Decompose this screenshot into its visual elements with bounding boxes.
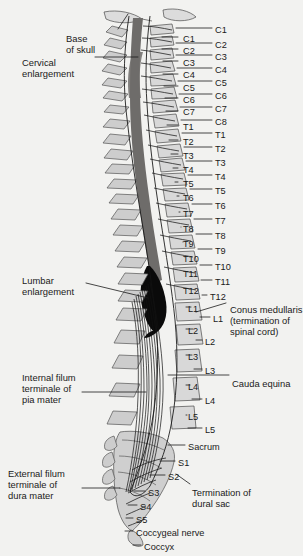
vertebra-label-t8-line: T8 bbox=[183, 224, 194, 235]
label-lumbar-enlargement-line: enlargement bbox=[22, 286, 74, 297]
nerve-label-c8-line: C8 bbox=[215, 117, 227, 128]
label-cervical-enlargement-line: enlargement bbox=[22, 68, 74, 79]
nerve-label-c6-line: C6 bbox=[215, 91, 227, 102]
label-base-of-skull: Baseof skull bbox=[66, 33, 95, 55]
vertebra-label-t6-line: T6 bbox=[183, 193, 194, 204]
label-external-filum-terminale-line: External filum bbox=[8, 468, 65, 479]
nerve-label-sacrum: Sacrum bbox=[188, 442, 220, 453]
vertebra-label-t2: T2 bbox=[183, 137, 194, 148]
nerve-label-l5: L5 bbox=[205, 425, 215, 436]
nerve-label-c2-line: C2 bbox=[215, 40, 227, 51]
vertebra-label-t12: T12 bbox=[183, 286, 199, 297]
nerve-label-t9-line: T9 bbox=[215, 246, 226, 257]
nerve-label-t2: T2 bbox=[215, 144, 226, 155]
vertebra-label-t10: T10 bbox=[183, 254, 199, 265]
vertebra-label-c5-line: C5 bbox=[183, 83, 195, 94]
nerve-label-t7: T7 bbox=[215, 216, 226, 227]
vertebra-label-l5-line: L5 bbox=[188, 412, 198, 423]
vertebra-label-c7-line: C7 bbox=[183, 107, 195, 118]
note-conus-medullaris-line: spinal cord) bbox=[230, 326, 302, 337]
nerve-label-c8: C8 bbox=[215, 117, 227, 128]
nerve-label-l2: L2 bbox=[205, 337, 215, 348]
nerve-label-t5: T5 bbox=[215, 186, 226, 197]
nerve-label-t4: T4 bbox=[215, 172, 226, 183]
nerve-label-t6-line: T6 bbox=[215, 201, 226, 212]
nerve-label-t10: T10 bbox=[215, 262, 231, 273]
vertebra-label-t5: T5 bbox=[183, 179, 194, 190]
note-termination-dural-sac: Termination ofdural sac bbox=[192, 487, 251, 509]
nerve-label-t1-line: T1 bbox=[215, 130, 226, 141]
vertebra-label-l3: L3 bbox=[188, 352, 198, 363]
nerve-label-s2: S2 bbox=[168, 472, 179, 483]
vertebra-label-t4-line: T4 bbox=[183, 165, 194, 176]
nerve-label-s2-line: S2 bbox=[168, 472, 179, 483]
vertebra-label-l3-line: L3 bbox=[188, 352, 198, 363]
vertebra-label-l1-line: L1 bbox=[188, 304, 198, 315]
vertebra-label-t2-line: T2 bbox=[183, 137, 194, 148]
label-base-of-skull-line: of skull bbox=[66, 44, 95, 55]
nerve-label-coccygeal-nerve-line: Coccygeal nerve bbox=[136, 528, 204, 539]
nerve-label-c7: C7 bbox=[215, 104, 227, 115]
nerve-label-c6: C6 bbox=[215, 91, 227, 102]
nerve-label-c4-line: C4 bbox=[215, 65, 227, 76]
vertebra-label-t4: T4 bbox=[183, 165, 194, 176]
label-base-of-skull-line: Base bbox=[66, 33, 95, 44]
nerve-label-l4-line: L4 bbox=[205, 396, 215, 407]
note-cauda-equina: Cauda equina bbox=[232, 378, 290, 389]
vertebra-label-c1: C1 bbox=[183, 34, 195, 45]
nerve-label-coccygeal-nerve: Coccygeal nerve bbox=[136, 528, 204, 539]
nerve-label-s4: S4 bbox=[140, 502, 151, 513]
vertebra-label-t5-line: T5 bbox=[183, 179, 194, 190]
label-external-filum-terminale-line: terminale of bbox=[8, 479, 65, 490]
nerve-label-c1-line: C1 bbox=[215, 25, 227, 36]
label-external-filum-terminale: External filumterminale ofdura mater bbox=[8, 468, 65, 501]
vertebra-label-t9-line: T9 bbox=[183, 239, 194, 250]
nerve-label-c5: C5 bbox=[215, 78, 227, 89]
nerve-label-t12: T12 bbox=[210, 292, 226, 303]
vertebra-label-l4: L4 bbox=[188, 382, 198, 393]
label-internal-filum-terminale: Internal filumterminale ofpia mater bbox=[22, 372, 76, 405]
vertebra-label-t1: T1 bbox=[183, 122, 194, 133]
nerve-label-t1: T1 bbox=[215, 130, 226, 141]
vertebra-label-t11-line: T11 bbox=[183, 269, 198, 280]
nerve-label-c2: C2 bbox=[215, 40, 227, 51]
vertebra-label-c1-line: C1 bbox=[183, 34, 195, 45]
vertebra-label-c6-line: C6 bbox=[183, 95, 195, 106]
nerve-label-t7-line: T7 bbox=[215, 216, 226, 227]
nerve-label-t3-line: T3 bbox=[215, 158, 226, 169]
nerve-label-t8: T8 bbox=[215, 231, 226, 242]
vertebra-label-c2-line: C2 bbox=[183, 46, 195, 57]
label-cervical-enlargement-line: Cervical bbox=[22, 57, 74, 68]
nerve-label-l5-line: L5 bbox=[205, 425, 215, 436]
nerve-label-s1-line: S1 bbox=[178, 458, 189, 469]
nerve-label-s5-line: S5 bbox=[136, 515, 147, 526]
nerve-label-c7-line: C7 bbox=[215, 104, 227, 115]
nerve-label-l2-line: L2 bbox=[205, 337, 215, 348]
nerve-label-l4: L4 bbox=[205, 396, 215, 407]
vertebra-label-t3: T3 bbox=[183, 151, 194, 162]
vertebra-label-c2: C2 bbox=[183, 46, 195, 57]
label-cervical-enlargement: Cervicalenlargement bbox=[22, 57, 74, 79]
spinal-cord-diagram: Baseof skullCervicalenlargementLumbarenl… bbox=[0, 0, 303, 556]
nerve-label-l3-line: L3 bbox=[205, 366, 215, 377]
vertebra-label-c7: C7 bbox=[183, 107, 195, 118]
nerve-label-coccyx-line: Coccyx bbox=[144, 542, 174, 553]
vertebra-label-c3-line: C3 bbox=[183, 58, 195, 69]
vertebra-label-l2-line: L2 bbox=[188, 326, 198, 337]
nerve-label-s1: S1 bbox=[178, 458, 189, 469]
nerve-label-l1-line: L1 bbox=[213, 314, 223, 325]
label-internal-filum-terminale-line: terminale of bbox=[22, 383, 76, 394]
vertebra-label-t10-line: T10 bbox=[183, 254, 199, 265]
nerve-label-t9: T9 bbox=[215, 246, 226, 257]
note-conus-medullaris: Conus medullaris(termination ofspinal co… bbox=[230, 304, 302, 337]
nerve-label-l1: L1 bbox=[213, 314, 223, 325]
vertebra-label-c6: C6 bbox=[183, 95, 195, 106]
nerve-label-t11-line: T11 bbox=[215, 277, 230, 288]
vertebra-label-c5: C5 bbox=[183, 83, 195, 94]
nerve-label-sacrum-line: Sacrum bbox=[188, 442, 220, 453]
vertebra-label-l5: L5 bbox=[188, 412, 198, 423]
note-cauda-equina-line: Cauda equina bbox=[232, 378, 290, 389]
vertebra-label-c4: C4 bbox=[183, 70, 195, 81]
label-external-filum-terminale-line: dura mater bbox=[8, 490, 65, 501]
vertebra-label-c4-line: C4 bbox=[183, 70, 195, 81]
